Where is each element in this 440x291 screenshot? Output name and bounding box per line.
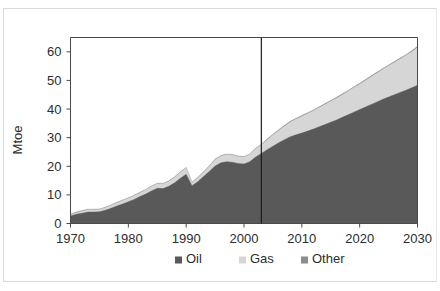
x-tick-label-2000: 2000 bbox=[230, 231, 259, 246]
y-axis: 0102030405060 bbox=[47, 44, 70, 231]
legend-item-oil: Oil bbox=[175, 251, 202, 266]
legend-label-other: Other bbox=[312, 251, 345, 266]
stacked-area-chart: 0102030405060 19701980199020002010202020… bbox=[0, 0, 440, 291]
legend-label-oil: Oil bbox=[186, 251, 202, 266]
x-tick-label-1990: 1990 bbox=[172, 231, 201, 246]
legend-item-other: Other bbox=[301, 251, 345, 266]
legend-item-gas: Gas bbox=[239, 251, 274, 266]
x-tick-label-2020: 2020 bbox=[345, 231, 374, 246]
y-tick-label-0: 0 bbox=[54, 216, 61, 231]
legend-swatch-other bbox=[301, 257, 308, 264]
x-tick-label-2030: 2030 bbox=[403, 231, 432, 246]
x-tick-label-1980: 1980 bbox=[114, 231, 143, 246]
x-tick-label-2010: 2010 bbox=[287, 231, 316, 246]
legend-swatch-oil bbox=[175, 257, 182, 264]
y-tick-label-30: 30 bbox=[47, 130, 61, 145]
y-tick-label-20: 20 bbox=[47, 159, 61, 174]
y-tick-label-50: 50 bbox=[47, 73, 61, 88]
chart-figure: 0102030405060 19701980199020002010202020… bbox=[0, 0, 440, 291]
y-tick-label-10: 10 bbox=[47, 187, 61, 202]
y-axis-title: Mtoe bbox=[10, 126, 25, 155]
chart-legend: OilGasOther bbox=[175, 251, 345, 266]
x-tick-label-1970: 1970 bbox=[56, 231, 85, 246]
legend-label-gas: Gas bbox=[250, 251, 274, 266]
chart-area-series-group bbox=[71, 46, 418, 223]
legend-swatch-gas bbox=[239, 257, 246, 264]
plot-wrapper: 0102030405060 19701980199020002010202020… bbox=[0, 0, 440, 291]
x-axis: 1970198019902000201020202030 bbox=[56, 224, 432, 246]
y-tick-label-40: 40 bbox=[47, 102, 61, 117]
y-tick-label-60: 60 bbox=[47, 44, 61, 59]
